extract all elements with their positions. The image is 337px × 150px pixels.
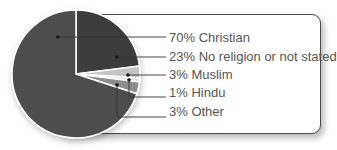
label-no-religion: 23% No religion or not stated (169, 49, 337, 64)
label-christian: 70% Christian (169, 30, 250, 45)
label-hindu: 1% Hindu (169, 85, 225, 100)
pie (12, 10, 140, 138)
label-other: 3% Other (169, 104, 224, 119)
label-muslim: 3% Muslim (169, 67, 233, 82)
pie-slice-no-religion-or-not-stated (76, 10, 139, 74)
